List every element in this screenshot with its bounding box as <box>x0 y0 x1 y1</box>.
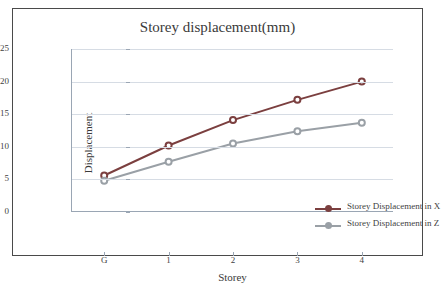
x-axis-title: Storey <box>72 271 393 283</box>
series-line <box>104 123 362 181</box>
y-tick-mark <box>126 49 130 50</box>
gridline <box>72 49 393 50</box>
y-tick-label: 15 <box>0 108 9 118</box>
x-tick-label: G <box>84 255 124 265</box>
data-point <box>166 159 172 165</box>
x-tick-mark <box>169 252 170 256</box>
legend-marker-icon <box>325 222 332 229</box>
y-tick-mark <box>126 212 130 213</box>
y-tick-label: 5 <box>0 173 9 183</box>
y-tick-label: 0 <box>0 206 9 216</box>
data-point <box>294 128 300 134</box>
x-tick-label: 3 <box>277 255 317 265</box>
x-tick-label: 4 <box>342 255 382 265</box>
legend-item: Storey Displacement in X <box>315 201 445 218</box>
legend-label: Storey Displacement in X <box>347 201 440 211</box>
y-tick-label: 10 <box>0 141 9 151</box>
plot-area: Displacement Storey Storey Displacement … <box>71 49 393 212</box>
x-tick-label: 2 <box>213 255 253 265</box>
x-tick-mark <box>297 252 298 256</box>
chart-legend: Storey Displacement in XStorey Displacem… <box>315 201 445 235</box>
y-tick-mark <box>126 147 130 148</box>
gridline <box>72 179 393 180</box>
y-tick-label: 20 <box>0 76 9 86</box>
legend-label: Storey Displacement in Z <box>347 218 439 228</box>
y-tick-mark <box>126 82 130 83</box>
x-tick-mark <box>362 252 363 256</box>
legend-marker-icon <box>325 205 332 212</box>
data-point <box>294 97 300 103</box>
gridline <box>72 114 393 115</box>
y-tick-mark <box>126 179 130 180</box>
chart-container: Storey displacement(mm) Displacement Sto… <box>12 8 423 256</box>
y-axis-title: Displacement <box>82 83 94 203</box>
gridline <box>72 82 393 83</box>
data-point <box>359 120 365 126</box>
y-tick-label: 25 <box>0 43 9 53</box>
x-tick-mark <box>104 252 105 256</box>
data-point <box>230 141 236 147</box>
gridline <box>72 147 393 148</box>
data-point <box>230 117 236 123</box>
series-layer <box>72 49 394 212</box>
legend-item: Storey Displacement in Z <box>315 218 445 235</box>
y-tick-mark <box>126 114 130 115</box>
x-tick-label: 1 <box>149 255 189 265</box>
chart-title: Storey displacement(mm) <box>13 19 422 36</box>
x-tick-mark <box>233 252 234 256</box>
